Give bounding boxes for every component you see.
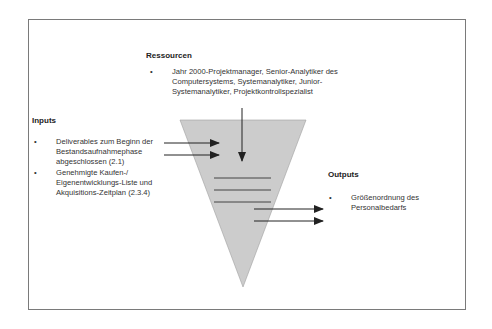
resource-text: Jahr 2000-Projektmanager, Senior-Analyti… <box>172 67 338 96</box>
resources-list: • Jahr 2000-Projektmanager, Senior-Analy… <box>150 67 350 98</box>
bullet-icon: • <box>150 67 153 77</box>
output-text: Größenordnung des Personalbedarfs <box>351 193 419 212</box>
bullet-icon: • <box>34 137 37 147</box>
list-item: • Jahr 2000-Projektmanager, Senior-Analy… <box>150 67 350 98</box>
outputs-list: • Größenordnung des Personalbedarfs <box>329 193 439 213</box>
resources-heading: Ressourcen <box>146 51 192 60</box>
outputs-heading: Outputs <box>328 170 359 179</box>
inputs-heading: Inputs <box>32 116 56 125</box>
bullet-icon: • <box>34 168 37 178</box>
list-item: • Deliverables zum Beginn der Bestandsau… <box>34 137 162 168</box>
bullet-icon: • <box>329 193 332 203</box>
list-item: • Genehmigte Kaufen-/ Eigenentwicklungs-… <box>34 168 162 199</box>
inputs-list: • Deliverables zum Beginn der Bestandsau… <box>34 137 162 198</box>
list-item: • Größenordnung des Personalbedarfs <box>329 193 439 213</box>
input-text: Deliverables zum Beginn der Bestandsaufn… <box>56 137 153 166</box>
input-text: Genehmigte Kaufen-/ Eigenentwicklungs-Li… <box>56 168 152 197</box>
funnel-shape <box>180 120 306 287</box>
